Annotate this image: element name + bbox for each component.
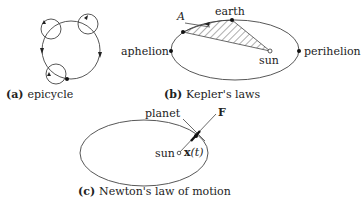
planet-dot <box>194 134 198 138</box>
aphelion-dot <box>169 49 173 53</box>
label-perihelion: perihelion <box>304 45 361 58</box>
panel-kepler: A earth sun aphelion perihelion (b)Keple… <box>121 5 361 101</box>
label-sun: sun <box>155 147 175 160</box>
sun-icon <box>268 49 272 53</box>
label-position: x(t) <box>184 146 204 159</box>
planet-dot <box>65 77 69 81</box>
panel-newton: planet F sun x(t) (c)Newton's law of mot… <box>78 106 231 198</box>
arrow-icon <box>40 48 44 54</box>
arrow-icon <box>47 72 51 76</box>
arrow-icon <box>98 52 102 58</box>
label-planet: planet <box>145 107 181 120</box>
perihelion-dot <box>297 49 301 53</box>
caption-a: (a)epicycle <box>6 88 73 101</box>
panel-epicycle: (a)epicycle <box>6 14 102 101</box>
caption-b: (b)Kepler's laws <box>164 88 261 101</box>
sun-icon <box>177 151 181 155</box>
figure: (a)epicycle A earth sun aphelion perihel… <box>0 0 363 209</box>
epicycle-circle <box>78 14 98 34</box>
diagram-canvas: (a)epicycle A earth sun aphelion perihel… <box>0 0 363 209</box>
label-earth: earth <box>215 5 245 18</box>
caption-c: (c)Newton's law of motion <box>78 185 231 198</box>
label-area-a: A <box>176 10 185 23</box>
earth-dot <box>230 18 234 22</box>
label-sun: sun <box>259 54 279 67</box>
arrow-icon <box>84 15 88 20</box>
orbit-point <box>181 30 185 34</box>
deferent-circle <box>42 21 100 79</box>
label-aphelion: aphelion <box>121 45 169 58</box>
label-force: F <box>218 106 226 119</box>
